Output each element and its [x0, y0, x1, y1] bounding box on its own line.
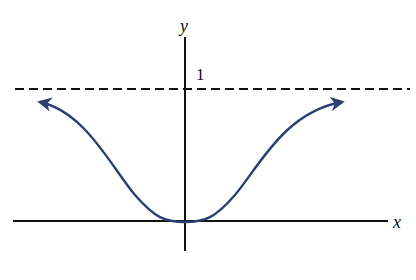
x-axis-label: x — [392, 212, 401, 232]
asymptote-label: 1 — [196, 65, 205, 84]
bell-curve — [40, 102, 342, 222]
graph-canvas: y x 1 — [0, 0, 416, 280]
y-axis-label: y — [178, 16, 188, 36]
